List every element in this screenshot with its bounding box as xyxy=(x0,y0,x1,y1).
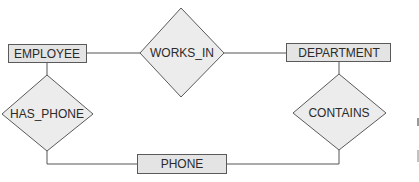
entity-department[interactable]: DEPARTMENT xyxy=(287,44,391,62)
edge-has-phone-phone xyxy=(47,151,137,164)
relationship-contains[interactable]: CONTAINS xyxy=(293,74,386,150)
entity-department-label: DEPARTMENT xyxy=(298,46,380,60)
relationship-has-phone[interactable]: HAS_PHONE xyxy=(2,75,93,151)
relationship-contains-label: CONTAINS xyxy=(308,106,369,120)
entity-phone[interactable]: PHONE xyxy=(138,155,227,174)
relationship-works-in[interactable]: WORKS_IN xyxy=(140,8,224,97)
relationship-works-in-label: WORKS_IN xyxy=(150,46,214,60)
entity-employee-label: EMPLOYEE xyxy=(14,47,80,61)
entity-employee[interactable]: EMPLOYEE xyxy=(9,45,87,63)
er-diagram: EMPLOYEE DEPARTMENT PHONE WORKS_IN HAS_P… xyxy=(0,0,419,182)
relationship-has-phone-label: HAS_PHONE xyxy=(10,107,84,121)
entity-phone-label: PHONE xyxy=(161,157,204,171)
edge-contains-phone xyxy=(227,150,339,164)
